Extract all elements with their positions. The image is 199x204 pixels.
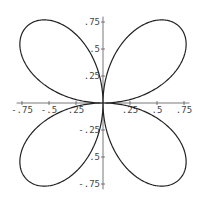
y-tick-label: -.75 [78, 179, 100, 189]
y-tick-label: .25 [84, 71, 100, 81]
polar-plot: -.75-.5.25.25.5.75.75.5.25-.25.5-.75 [0, 0, 199, 204]
x-tick-label: -.5 [41, 105, 57, 115]
y-tick-label: .5 [89, 152, 100, 162]
y-tick-label: .75 [84, 17, 100, 27]
y-tick-label: -.25 [78, 125, 100, 135]
x-tick-label: .5 [152, 105, 163, 115]
x-tick-label: .75 [176, 105, 192, 115]
x-tick-label: -.75 [11, 105, 33, 115]
y-tick-label: .5 [89, 44, 100, 54]
